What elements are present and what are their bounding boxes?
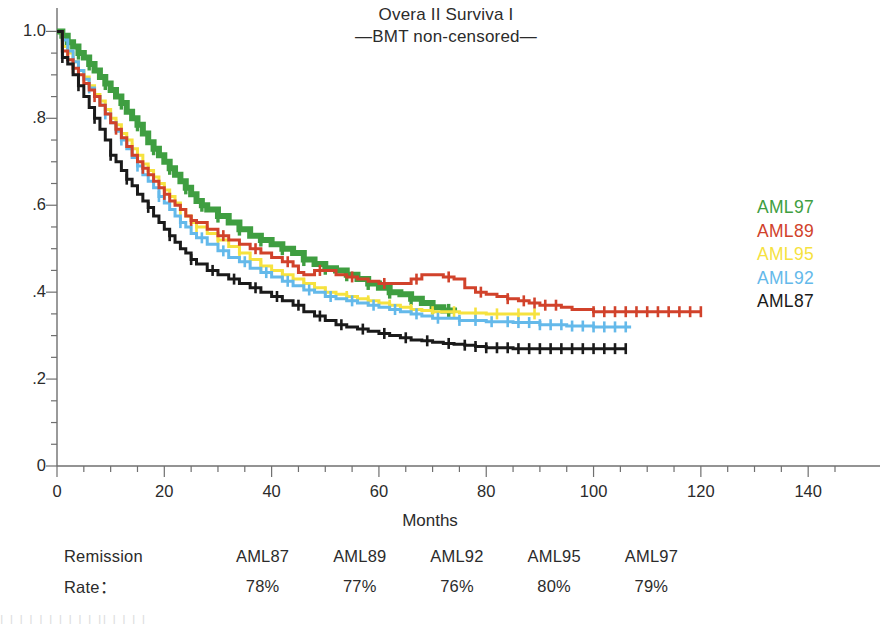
rate-label: Rate： <box>60 572 214 604</box>
x-tick-label: 20 <box>134 482 194 501</box>
legend-item-aml89[interactable]: AML89 <box>757 220 877 244</box>
x-tick-label: 60 <box>349 482 409 501</box>
chart-legend: AML97AML89AML95AML92AML87 <box>757 196 877 314</box>
legend-item-aml92[interactable]: AML92 <box>757 267 877 291</box>
table-column-header: AML87 <box>214 545 311 572</box>
table-row: Rate：78%77%76%80%79% <box>60 572 700 604</box>
table-column-header: AML89 <box>311 545 408 572</box>
y-tick-label: .6 <box>2 195 46 214</box>
remission-rate-table: RemissionAML87AML89AML92AML95AML97Rate：7… <box>60 545 760 604</box>
x-tick-label: 140 <box>778 482 838 501</box>
table-column-header: AML97 <box>603 545 700 572</box>
series-aml89 <box>57 31 701 317</box>
series-aml92 <box>57 31 631 332</box>
remission-rate-value: 77% <box>311 572 408 604</box>
remission-rate-value: 78% <box>214 572 311 604</box>
x-tick-label: 100 <box>564 482 624 501</box>
footer-scan-artifact: | | | | | | | | | | || | | | | <box>0 612 893 624</box>
series-aml97 <box>57 31 454 317</box>
x-tick-label: 120 <box>671 482 731 501</box>
table-column-header: AML95 <box>506 545 603 572</box>
survival-curve-aml92 <box>57 31 631 327</box>
survival-chart-figure: Overa II Surviva I —BMT non-censored— 1.… <box>0 0 893 625</box>
survival-curve-aml87 <box>57 31 626 348</box>
y-tick-label: .8 <box>2 108 46 127</box>
y-tick-label: .2 <box>2 369 46 388</box>
x-tick-label: 40 <box>242 482 302 501</box>
y-tick-label: .4 <box>2 282 46 301</box>
table-row: RemissionAML87AML89AML92AML95AML97 <box>60 545 700 572</box>
remission-rate-value: 76% <box>408 572 505 604</box>
x-tick-label: 80 <box>456 482 516 501</box>
series-aml95 <box>57 31 540 319</box>
legend-item-aml97[interactable]: AML97 <box>757 196 877 220</box>
remission-label: Remission <box>60 545 214 572</box>
x-axis-label: Months <box>330 511 530 531</box>
legend-item-aml87[interactable]: AML87 <box>757 290 877 314</box>
y-tick-label: 1.0 <box>2 21 46 40</box>
x-tick-label: 0 <box>27 482 87 501</box>
remission-rate-value: 79% <box>603 572 700 604</box>
table-column-header: AML92 <box>408 545 505 572</box>
remission-rate-value: 80% <box>506 572 603 604</box>
legend-item-aml95[interactable]: AML95 <box>757 243 877 267</box>
y-tick-label: 0 <box>2 456 46 475</box>
